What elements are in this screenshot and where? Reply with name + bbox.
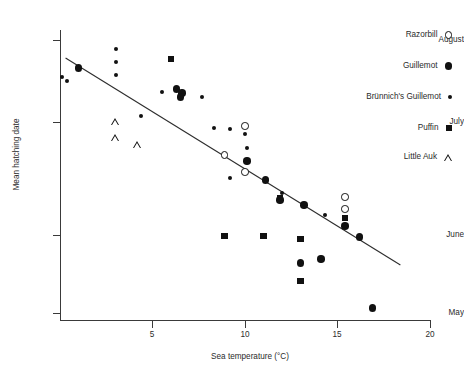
data-point-puffin-1	[277, 195, 284, 202]
data-point-br-nnich-s-guillemot-9	[228, 127, 232, 131]
data-point-puffin-0	[168, 56, 175, 63]
legend-marker-puffin-icon	[446, 125, 453, 132]
y-axis-label-june: June	[416, 231, 464, 239]
data-point-razorbill-3	[341, 193, 349, 201]
x-axis-label-15: 15	[322, 331, 352, 339]
data-point-guillemot-9	[356, 233, 364, 241]
data-point-guillemot-5	[262, 176, 270, 184]
data-point-little-auk-1	[111, 134, 119, 141]
data-point-puffin-3	[260, 233, 267, 240]
data-point-br-nnich-s-guillemot-14	[323, 213, 327, 217]
legend-label-guillemot: Guillemot	[403, 62, 438, 70]
legend-item-br-nnich-s-guillemot: Brünnich's Guillemot	[366, 93, 452, 101]
x-axis-label-10: 10	[230, 331, 260, 339]
y-tick-august	[53, 40, 61, 41]
y-tick-july	[53, 122, 61, 123]
data-point-br-nnich-s-guillemot-3	[114, 60, 118, 64]
legend-item-little-auk: Little Auk	[404, 153, 452, 161]
data-point-br-nnich-s-guillemot-8	[212, 126, 216, 130]
data-point-br-nnich-s-guillemot-0	[60, 75, 64, 79]
legend-marker-br-nnich-s-guillemot-icon	[448, 95, 452, 99]
legend-label-little-auk: Little Auk	[404, 153, 437, 161]
x-tick-5	[152, 320, 153, 328]
data-point-br-nnich-s-guillemot-7	[139, 114, 143, 118]
data-point-razorbill-0	[241, 122, 249, 130]
data-point-little-auk-0	[111, 118, 119, 125]
data-point-little-auk-2	[133, 141, 141, 148]
data-point-guillemot-0	[75, 64, 83, 72]
data-point-br-nnich-s-guillemot-10	[243, 132, 247, 136]
data-point-puffin-2	[221, 233, 228, 240]
legend-item-guillemot: Guillemot	[403, 62, 452, 70]
data-point-puffin-6	[297, 278, 304, 285]
x-axis-label-20: 20	[415, 331, 445, 339]
data-point-br-nnich-s-guillemot-5	[160, 90, 164, 94]
data-point-br-nnich-s-guillemot-11	[245, 146, 249, 150]
y-axis-label-may: May	[416, 309, 464, 317]
data-point-br-nnich-s-guillemot-6	[200, 95, 204, 99]
x-tick-20	[430, 320, 431, 328]
y-axis-line	[60, 30, 61, 320]
data-point-guillemot-10	[297, 259, 305, 267]
scatter-plot: AugustJulyJuneMay 5101520 Mean hatching …	[0, 0, 464, 377]
data-point-puffin-5	[297, 236, 304, 243]
data-point-br-nnich-s-guillemot-2	[114, 47, 118, 51]
data-point-guillemot-12	[369, 304, 377, 312]
data-point-br-nnich-s-guillemot-4	[114, 73, 118, 77]
data-point-guillemot-7	[300, 201, 308, 209]
data-point-puffin-4	[342, 215, 349, 222]
legend-label-razorbill: Razorbill	[406, 31, 438, 39]
data-point-razorbill-1	[221, 151, 229, 159]
y-tick-may	[53, 313, 61, 314]
legend-marker-little-auk-icon	[444, 154, 452, 161]
data-points-layer	[0, 0, 464, 21]
legend-marker-razorbill-icon	[445, 31, 453, 39]
x-tick-15	[337, 320, 338, 328]
data-point-guillemot-4	[243, 157, 251, 165]
data-point-guillemot-3	[177, 93, 185, 101]
x-tick-10	[245, 320, 246, 328]
data-point-br-nnich-s-guillemot-1	[65, 79, 69, 83]
data-point-guillemot-8	[341, 222, 349, 230]
y-axis-title: Mean hatching date	[12, 95, 21, 215]
x-axis-title: Sea temperature (°C)	[150, 352, 350, 361]
legend-marker-guillemot-icon	[445, 62, 453, 70]
data-point-razorbill-4	[341, 205, 349, 213]
data-point-br-nnich-s-guillemot-12	[228, 176, 232, 180]
y-tick-june	[53, 235, 61, 236]
legend-item-razorbill: Razorbill	[406, 31, 452, 39]
legend-label-puffin: Puffin	[418, 124, 439, 132]
data-point-guillemot-11	[317, 255, 325, 263]
legend-item-puffin: Puffin	[418, 124, 452, 132]
data-point-razorbill-2	[241, 168, 249, 176]
x-axis-label-5: 5	[137, 331, 167, 339]
legend-label-br-nnich-s-guillemot: Brünnich's Guillemot	[366, 93, 441, 101]
